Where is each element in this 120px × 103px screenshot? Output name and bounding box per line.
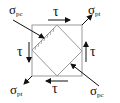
sigma-pc-arrow-top-left	[13, 20, 44, 38]
sigma-symbol: σ	[10, 82, 17, 97]
label-sigma-pt-top-right: σpt	[88, 3, 100, 18]
label-tau-right: τ	[90, 45, 96, 59]
label-sigma-pc-bottom-right: σpc	[90, 84, 104, 99]
sigma-symbol: σ	[9, 2, 16, 17]
hatch-marks	[35, 28, 54, 50]
principal-diamond	[32, 25, 82, 76]
label-sigma-pc-top-left: σpc	[9, 3, 23, 18]
subscript: pc	[16, 10, 23, 18]
label-sigma-pt-bottom-left: σpt	[10, 83, 22, 98]
label-tau-left: τ	[17, 45, 23, 59]
sigma-pt-arrow-bottom-left	[24, 76, 32, 84]
subscript: pt	[17, 90, 22, 98]
subscript: pc	[97, 91, 104, 99]
element-square	[32, 25, 82, 76]
sigma-symbol: σ	[88, 2, 95, 17]
label-tau-bottom: τ	[52, 82, 58, 96]
sigma-symbol: σ	[90, 83, 97, 98]
label-tau-top: τ	[53, 5, 59, 19]
subscript: pt	[95, 10, 100, 18]
